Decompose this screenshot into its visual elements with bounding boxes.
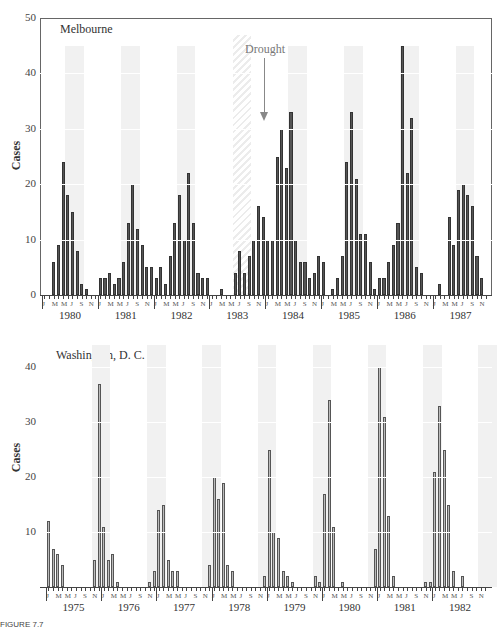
month-tick bbox=[53, 587, 54, 591]
month-label: M bbox=[219, 300, 225, 308]
year-label: 1981 bbox=[106, 309, 146, 321]
month-label: M bbox=[340, 300, 346, 308]
bar-1984-10 bbox=[313, 273, 316, 295]
year-label: 1984 bbox=[273, 309, 313, 321]
month-tick bbox=[300, 295, 301, 299]
bar-1986-4 bbox=[396, 223, 399, 295]
month-tick bbox=[288, 587, 289, 591]
month-tick bbox=[375, 587, 376, 591]
bar-1986-2 bbox=[387, 262, 390, 295]
month-tick bbox=[109, 295, 110, 299]
month-label: N bbox=[424, 592, 429, 600]
year-separator bbox=[46, 587, 47, 601]
month-tick bbox=[186, 587, 187, 591]
month-tick bbox=[216, 295, 217, 299]
bar-1984-7 bbox=[299, 262, 302, 295]
bar-1977-3 bbox=[171, 571, 174, 587]
month-tick bbox=[63, 295, 64, 299]
month-tick bbox=[81, 587, 82, 591]
bar-1986-9 bbox=[420, 273, 423, 295]
month-label: M bbox=[166, 592, 172, 600]
month-label: J bbox=[293, 300, 296, 308]
bar-1984-2 bbox=[276, 157, 279, 296]
bar-1975-2 bbox=[56, 554, 59, 587]
bar-1982-3 bbox=[447, 505, 450, 587]
month-tick bbox=[260, 587, 261, 591]
year-separator bbox=[154, 295, 155, 309]
month-tick bbox=[151, 295, 152, 299]
month-tick bbox=[370, 587, 371, 591]
bar-1980-2 bbox=[332, 527, 335, 587]
month-tick bbox=[198, 295, 199, 299]
bar-1982-4 bbox=[452, 571, 455, 587]
bar-1986-3 bbox=[392, 245, 395, 295]
month-tick bbox=[421, 587, 422, 591]
month-tick bbox=[175, 295, 176, 299]
month-label: M bbox=[163, 300, 169, 308]
month-tick bbox=[305, 295, 306, 299]
bar-1975-11 bbox=[98, 384, 101, 587]
year-separator bbox=[209, 295, 210, 309]
y-tick-label: 20 bbox=[12, 470, 36, 482]
month-tick bbox=[128, 295, 129, 299]
bar-1979-10 bbox=[314, 576, 317, 587]
melbourne-y-axis-label: Cases bbox=[9, 141, 24, 170]
month-tick bbox=[324, 587, 325, 591]
bar-1987-3 bbox=[448, 217, 451, 295]
month-label: J bbox=[129, 592, 132, 600]
month-tick bbox=[177, 587, 178, 591]
year-label: 1987 bbox=[441, 309, 481, 321]
year-separator bbox=[377, 295, 378, 309]
bar-1985-8 bbox=[359, 234, 362, 295]
month-tick bbox=[467, 587, 468, 591]
month-label: N bbox=[89, 300, 94, 308]
month-tick bbox=[137, 295, 138, 299]
bar-1982-6 bbox=[461, 576, 464, 587]
bar-1980-1 bbox=[328, 400, 331, 587]
month-tick bbox=[228, 587, 229, 591]
melbourne-title: Melbourne bbox=[60, 22, 113, 37]
bar-1979-3 bbox=[282, 571, 285, 587]
year-label: 1980 bbox=[330, 601, 370, 613]
bar-1977-1 bbox=[162, 505, 165, 587]
month-tick bbox=[463, 295, 464, 299]
month-tick bbox=[319, 295, 320, 299]
bar-1982-11 bbox=[206, 278, 209, 295]
year-label: 1979 bbox=[274, 601, 314, 613]
month-tick bbox=[454, 295, 455, 299]
bar-1977-4 bbox=[176, 571, 179, 587]
month-tick bbox=[283, 587, 284, 591]
year-label: 1986 bbox=[385, 309, 425, 321]
gridline bbox=[40, 422, 492, 423]
bar-1980-3 bbox=[57, 245, 60, 295]
month-label: M bbox=[451, 592, 457, 600]
month-tick bbox=[254, 295, 255, 299]
month-tick bbox=[407, 295, 408, 299]
bar-1985-0 bbox=[322, 262, 325, 295]
month-label: J bbox=[240, 592, 243, 600]
month-tick bbox=[352, 587, 353, 591]
month-label: N bbox=[368, 300, 373, 308]
bar-1981-6 bbox=[127, 223, 130, 295]
bar-1978-3 bbox=[226, 565, 229, 587]
gridline bbox=[40, 532, 492, 533]
bar-1976-2 bbox=[111, 554, 114, 587]
month-label: J bbox=[126, 300, 129, 308]
month-tick bbox=[398, 295, 399, 299]
bar-1982-4 bbox=[173, 223, 176, 295]
month-tick bbox=[435, 587, 436, 591]
month-tick bbox=[388, 295, 389, 299]
year-separator bbox=[42, 295, 43, 309]
month-label: M bbox=[173, 300, 179, 308]
drought-arrow-icon bbox=[264, 58, 265, 114]
month-tick bbox=[214, 587, 215, 591]
month-label: S bbox=[194, 592, 198, 600]
month-tick bbox=[108, 587, 109, 591]
bar-1980-5 bbox=[66, 195, 69, 295]
bar-1987-1 bbox=[438, 284, 441, 295]
bar-1984-9 bbox=[308, 278, 311, 295]
month-label: M bbox=[107, 300, 113, 308]
y-tick-label: 30 bbox=[12, 415, 36, 427]
month-label: J bbox=[405, 300, 408, 308]
month-tick bbox=[301, 587, 302, 591]
